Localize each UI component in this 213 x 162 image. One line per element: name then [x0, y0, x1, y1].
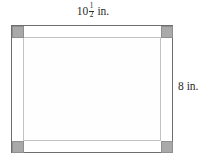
- fraction-denominator: 2: [89, 12, 95, 20]
- top-dimension-label: 1012in.: [48, 3, 138, 20]
- corner-square-bottom-right: [161, 141, 173, 153]
- corner-square-top-left: [12, 26, 24, 38]
- corner-square-top-right: [161, 26, 173, 38]
- top-dimension-whole-number: 10: [77, 5, 89, 17]
- top-dimension-unit: in.: [97, 5, 109, 17]
- top-dimension-fraction: 12: [89, 3, 95, 20]
- right-dimension-label: 8 in.: [178, 80, 198, 93]
- frame-inner-rectangle: [23, 37, 161, 141]
- frame-outer-rectangle: [11, 25, 173, 153]
- corner-square-bottom-left: [12, 141, 24, 153]
- geometry-figure: 1012in. 8 in.: [0, 0, 213, 162]
